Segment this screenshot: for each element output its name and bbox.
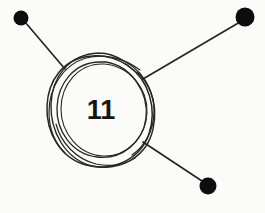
node-bottom-right[interactable] [200,178,217,195]
diagram-svg: 11 [0,0,265,213]
diagram-canvas: 11 [0,0,265,213]
canvas-background [0,0,265,213]
node-top-left[interactable] [14,11,29,26]
central-node-label: 11 [87,95,116,125]
node-top-right[interactable] [236,8,255,27]
